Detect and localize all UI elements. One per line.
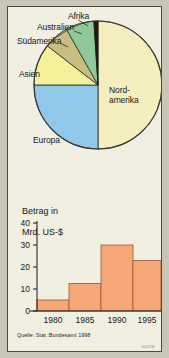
bar-chart: Betrag in Mrd. US-$ 40 bbox=[8, 189, 161, 353]
pie-chart: Afrika Australien Südamerika Asien Europ… bbox=[8, 7, 161, 187]
x-tick-label-1980: 1980 bbox=[44, 315, 63, 325]
x-tick-label-1995: 1995 bbox=[138, 315, 157, 325]
pie-label-australien: Australien bbox=[37, 22, 74, 32]
source-note: Quelle: Stat. Bundesamt 1998 bbox=[17, 332, 90, 338]
pie-label-suedamerika: Südamerika bbox=[17, 36, 61, 46]
x-tick-label-1990: 1990 bbox=[108, 315, 127, 325]
y-tick-label-20: 20 bbox=[21, 262, 31, 272]
pie-label-afrika: Afrika bbox=[68, 11, 89, 21]
y-tick-label-0: 0 bbox=[25, 306, 30, 316]
pie-label-nordamerika-line2: amerika bbox=[109, 95, 139, 105]
bar-chart-svg: 40 30 20 10 0 1980 1985 1990 1995 bbox=[8, 189, 161, 353]
bar-1980 bbox=[37, 300, 69, 311]
pie-label-nordamerika-line1: Nord- bbox=[109, 85, 139, 95]
figure-code-label: 5002E bbox=[141, 344, 155, 349]
figure-panel: Afrika Australien Südamerika Asien Europ… bbox=[7, 6, 162, 352]
pie-label-europa: Europa bbox=[33, 135, 60, 145]
pie-label-asien: Asien bbox=[19, 69, 40, 79]
bar-1990 bbox=[101, 245, 133, 311]
bar-1985 bbox=[69, 284, 101, 312]
x-tick-label-1985: 1985 bbox=[76, 315, 95, 325]
y-tick-label-10: 10 bbox=[21, 284, 31, 294]
y-tick-label-30: 30 bbox=[21, 240, 31, 250]
bar-1995 bbox=[133, 260, 161, 311]
pie-label-nordamerika: Nord- amerika bbox=[109, 85, 139, 105]
figure-root: Afrika Australien Südamerika Asien Europ… bbox=[0, 0, 169, 358]
y-tick-label-40: 40 bbox=[21, 218, 31, 228]
